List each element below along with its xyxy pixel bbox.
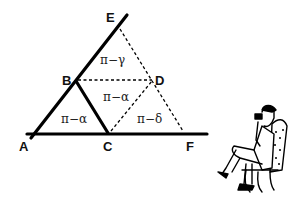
angle-label-pi-alpha-left: π−α xyxy=(61,112,87,126)
point-label-e: E xyxy=(106,10,115,25)
point-label-c: C xyxy=(103,139,113,154)
angle-label-pi-gamma: π−γ xyxy=(100,53,125,67)
point-label-d: D xyxy=(155,73,164,88)
angle-label-pi-delta: π−δ xyxy=(137,112,162,126)
angle-label-pi-alpha-center: π−α xyxy=(103,90,129,104)
triangle-diagram: A B C D E F π−γ π−α π−α π−δ xyxy=(0,0,307,211)
seated-man-illustration xyxy=(218,106,287,193)
point-label-f: F xyxy=(186,139,194,154)
point-label-a: A xyxy=(19,139,29,154)
point-label-b: B xyxy=(62,73,71,88)
